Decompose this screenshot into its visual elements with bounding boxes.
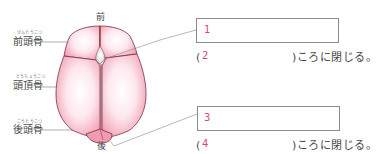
frontal-bone-label: 前頭骨 — [13, 37, 43, 47]
open-paren: ( — [196, 52, 200, 63]
blank-number-2[interactable]: 2 — [202, 51, 208, 61]
answer-box-1[interactable]: 1 — [196, 18, 339, 43]
skull — [56, 26, 146, 143]
answer-box-number: 3 — [204, 113, 210, 123]
answer-box-number: 1 — [204, 25, 210, 35]
parietal-bone-furigana: とうちょうこつ — [16, 75, 45, 79]
answer-box-3[interactable]: 3 — [197, 106, 340, 131]
sentence-tail-1: )ころに閉じる。 — [292, 52, 377, 63]
direction-back-label: 後 — [97, 142, 106, 151]
sentence-tail-2: )ころに閉じる。 — [292, 140, 377, 151]
frontal-bone-furigana: ぜんとうこつ — [17, 31, 42, 35]
direction-front-label: 前 — [96, 13, 105, 22]
open-paren: ( — [196, 140, 200, 151]
blank-number-4[interactable]: 4 — [202, 139, 208, 149]
parietal-bone-label: 頭頂骨 — [13, 81, 43, 91]
occipital-bone-label: 後頭骨 — [13, 125, 43, 135]
